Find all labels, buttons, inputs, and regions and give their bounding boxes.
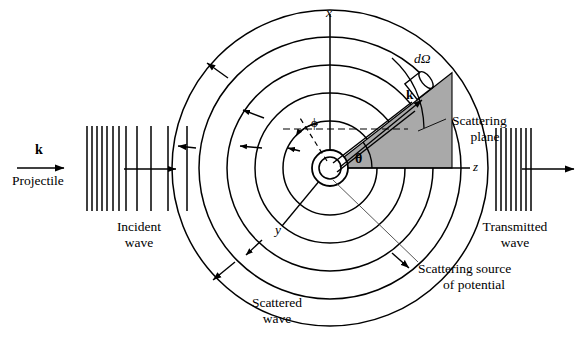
y-axis-label: y	[275, 223, 281, 238]
scattering-source-label-line2: of potential	[418, 278, 530, 293]
x-axis-label: x	[326, 6, 332, 21]
scattering-plane-label-line2: plane	[452, 130, 518, 145]
scattering-source-label-line1: Scattering source	[418, 262, 511, 277]
scattering-plane-label-line1: Scattering	[452, 114, 507, 129]
incident-k-label: k	[35, 142, 43, 157]
phi-angle-label: ϕ	[311, 117, 318, 131]
z-axis-label: z	[473, 160, 478, 174]
theta-angle-label: θ	[355, 151, 362, 166]
incident-wave-label-line1: Incident	[98, 220, 180, 235]
scattered-wave-label-line1: Scattered	[232, 296, 322, 311]
transmitted-wave-label-line1: Transmitted	[472, 220, 558, 235]
scattered-wave-label-line2: wave	[232, 312, 322, 327]
transmitted-wave-label-line2: wave	[472, 236, 558, 251]
projectile-label: Projectile	[12, 174, 64, 189]
scattered-k-label: k	[406, 88, 414, 103]
incident-wave-label-line2: wave	[98, 236, 180, 251]
solid-angle-label: dΩ	[414, 52, 431, 67]
